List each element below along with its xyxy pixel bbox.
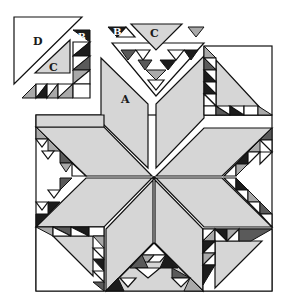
piece-d bbox=[14, 17, 82, 84]
loose-pieces-top-left bbox=[14, 17, 90, 98]
label-c-left: C bbox=[49, 61, 58, 74]
label-b-left: B bbox=[78, 32, 86, 42]
label-c-top: C bbox=[150, 27, 159, 40]
star-center bbox=[152, 176, 156, 180]
left-upper-band bbox=[36, 115, 104, 127]
corner-bottom-right bbox=[203, 229, 272, 291]
label-d: D bbox=[33, 35, 43, 48]
quilt-diagram: .L { fill:#d6d6d6; stroke:#111; stroke-w… bbox=[0, 0, 288, 303]
label-b-top: B bbox=[113, 26, 121, 37]
corner-bottom-left bbox=[36, 227, 104, 291]
label-a: A bbox=[120, 93, 130, 106]
